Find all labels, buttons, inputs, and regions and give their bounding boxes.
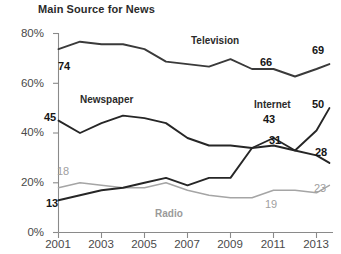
y-tick-20: 20% <box>8 176 44 188</box>
x-tick-2003: 2003 <box>79 238 123 250</box>
value-newspaper-mid: 31 <box>269 134 281 146</box>
value-radio-end: 23 <box>314 182 326 194</box>
value-radio-start: 18 <box>57 165 69 177</box>
x-tick-2005: 2005 <box>122 238 166 250</box>
value-television-start: 74 <box>58 60 70 72</box>
value-internet-start: 13 <box>46 197 58 209</box>
x-tick-2007: 2007 <box>165 238 209 250</box>
series-label-newspaper: Newspaper <box>80 94 133 105</box>
value-television-mid: 66 <box>260 56 272 68</box>
series-label-radio: Radio <box>155 208 183 219</box>
x-tick-2001: 2001 <box>36 238 80 250</box>
series-line-television <box>59 42 330 77</box>
series-label-television: Television <box>191 35 239 46</box>
chart-container: Main Source for News <box>0 0 341 254</box>
series-line-newspaper <box>59 116 330 163</box>
value-radio-mid: 19 <box>265 198 277 210</box>
y-tick-60: 60% <box>8 77 44 89</box>
series-label-internet: Internet <box>254 99 291 110</box>
x-tick-2013: 2013 <box>294 238 338 250</box>
value-newspaper-start: 45 <box>44 111 56 123</box>
x-tick-2011: 2011 <box>251 238 295 250</box>
series-line-internet <box>59 108 330 200</box>
y-tick-40: 40% <box>8 126 44 138</box>
x-tick-2009: 2009 <box>208 238 252 250</box>
value-internet-mid: 43 <box>263 113 275 125</box>
value-internet-end: 50 <box>312 98 324 110</box>
y-tick-0: 0% <box>8 226 44 238</box>
y-tick-80: 80% <box>8 27 44 39</box>
value-television-end: 69 <box>312 44 324 56</box>
value-newspaper-end: 28 <box>315 146 327 158</box>
